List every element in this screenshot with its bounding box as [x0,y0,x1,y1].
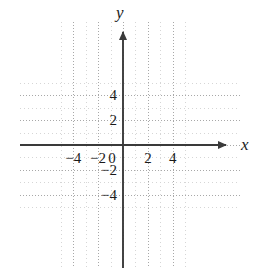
gridline-horizontal [20,195,240,196]
gridline-horizontal [20,207,240,208]
x-tick-label: 4 [169,151,177,166]
gridline-horizontal [20,120,240,121]
gridline-horizontal [20,157,240,158]
y-tick-label: 4 [110,88,118,103]
gridline-horizontal [20,108,240,109]
gridline-horizontal [20,133,240,134]
gridline-horizontal [20,83,240,84]
y-tick-label: −2 [101,162,117,177]
y-axis-label: y [116,4,124,21]
x-tick-label: −4 [65,151,81,166]
y-tick-label: 2 [110,113,118,128]
gridline-horizontal [20,95,240,96]
grid-layer [20,22,240,268]
gridline-horizontal [20,145,240,146]
gridline-horizontal [20,170,240,171]
y-tick-label: −4 [101,187,117,202]
x-axis-label: x [241,136,249,153]
gridline-horizontal [20,182,240,183]
coordinate-grid-figure: −4−202442−2−4 x y [0,0,275,276]
x-tick-label: 2 [144,151,152,166]
